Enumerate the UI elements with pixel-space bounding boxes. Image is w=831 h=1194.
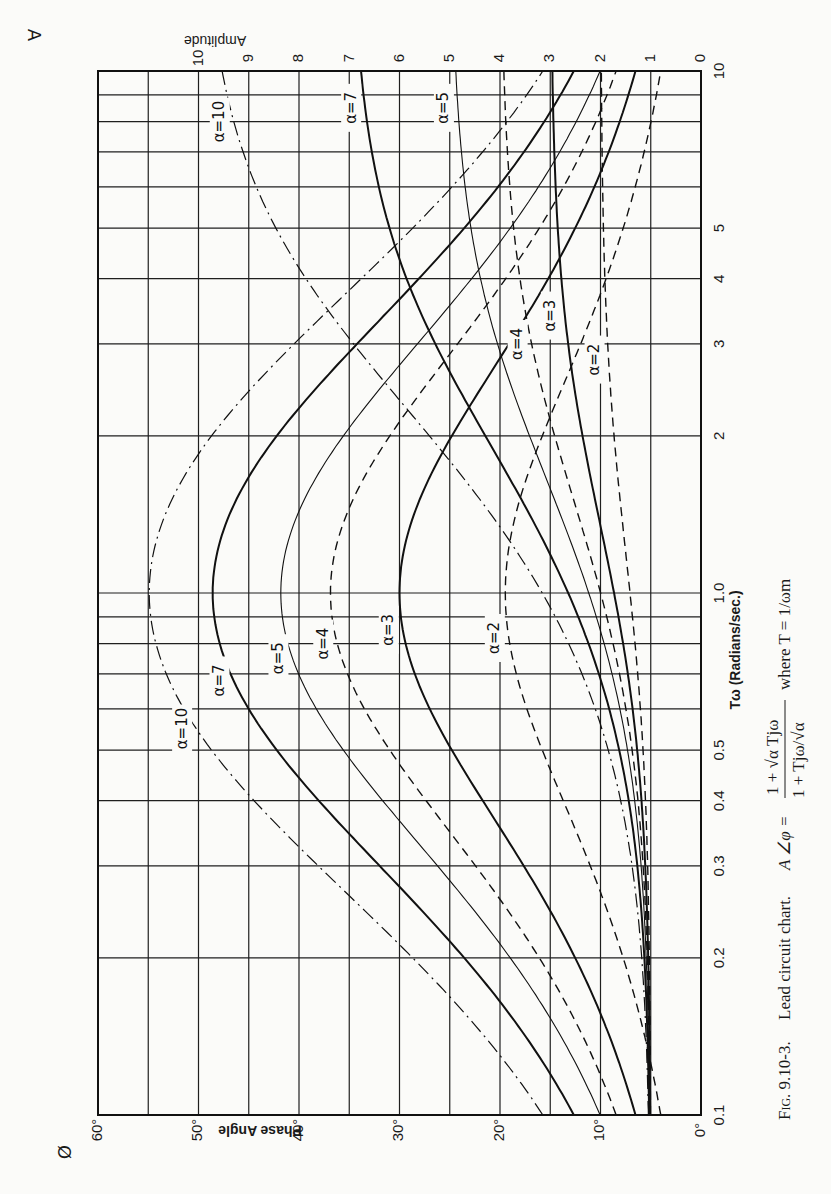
lead-circuit-chart: α=10α=7α=5α=4α=3α=2α=10α=7α=5α=4α=3α=2 0… — [0, 0, 831, 1194]
amplitude-tick-label: 3 — [540, 54, 557, 62]
alpha-label-amplitude: α=4 — [508, 328, 526, 360]
amplitude-tick-label: 6 — [390, 54, 407, 62]
phase-tick-label: 60° — [88, 1119, 105, 1142]
x-tick-label: 2 — [710, 432, 727, 440]
alpha-label-phase: α=2 — [485, 622, 503, 654]
alpha-label-amplitude: α=5 — [434, 92, 452, 124]
phase-tick-label: 10° — [590, 1119, 607, 1142]
x-tick-label: 0.3 — [710, 856, 727, 877]
amplitude-tick-label: 2 — [591, 54, 608, 62]
phase-axis-title: Phase Angle — [218, 1123, 302, 1139]
amplitude-tick-label: 1 — [641, 54, 658, 62]
alpha-label-amplitude: α=2 — [585, 344, 603, 376]
x-tick-label: 1.0 — [710, 583, 727, 604]
phase-tick-label: 30° — [389, 1119, 406, 1142]
caption-denominator: 1 + Tjω/√α — [789, 722, 808, 798]
phase-tick-label: 50° — [188, 1119, 205, 1142]
x-tick-label: 5 — [710, 224, 727, 232]
x-tick-label: 3 — [710, 340, 727, 348]
caption-lhs: A ∠φ = — [775, 816, 794, 871]
chart-axes: 0.10.20.30.40.51.02345100°10°20°30°40°50… — [88, 50, 727, 1142]
amplitude-tick-label: 7 — [340, 54, 357, 62]
caption-title: Lead circuit chart. — [775, 896, 794, 1020]
x-tick-label: 0.5 — [710, 740, 727, 761]
figure-caption: Fig. 9.10-3. Lead circuit chart. A ∠φ = … — [763, 579, 808, 1120]
amplitude-tick-label: 8 — [289, 54, 306, 62]
x-tick-label: 0.2 — [710, 947, 727, 968]
x-tick-label: 0.1 — [710, 1105, 727, 1126]
amplitude-tick-label: 9 — [239, 54, 256, 62]
phase-symbol: Ø — [54, 1145, 75, 1159]
alpha-label-phase: α=7 — [210, 664, 228, 696]
amplitude-tick-label: 4 — [490, 54, 507, 62]
alpha-label-phase: α=4 — [314, 628, 332, 660]
alpha-label-amplitude: α=3 — [541, 300, 559, 332]
amplitude-tick-label: 0 — [691, 54, 708, 62]
caption-numerator: 1 + √α Tjω — [763, 720, 782, 795]
x-axis-title: Tω (Radians/sec.) — [727, 590, 743, 709]
phase-tick-label: 20° — [490, 1119, 507, 1142]
alpha-label-amplitude: α=10 — [210, 101, 228, 143]
amplitude-tick-label: 5 — [440, 54, 457, 62]
x-tick-label: 0.4 — [710, 790, 727, 811]
alpha-label-phase: α=3 — [379, 614, 397, 646]
amplitude-symbol: A — [24, 29, 45, 42]
phase-tick-label: 0° — [691, 1123, 708, 1137]
x-tick-label: 10 — [710, 63, 727, 80]
caption-where: where T = 1/ωm — [775, 579, 794, 690]
alpha-label-phase: α=10 — [173, 708, 191, 750]
amplitude-tick-label: 10 — [189, 50, 206, 67]
amplitude-axis-title: Amplitude — [184, 33, 246, 49]
caption-label: Fig. 9.10-3. — [775, 1041, 794, 1120]
x-tick-label: 4 — [710, 275, 727, 283]
alpha-label-phase: α=5 — [269, 642, 287, 674]
alpha-label-amplitude: α=7 — [342, 92, 360, 124]
